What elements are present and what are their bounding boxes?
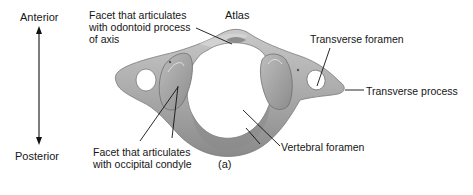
anterior-label: Anterior <box>20 11 59 23</box>
transverse-foramen-label: Transverse foramen <box>310 33 404 45</box>
anterior-posterior-arrow <box>36 26 42 145</box>
facet-occipital-label: Facet that articulates with occipital co… <box>93 146 192 170</box>
transverse-process-label: Transverse process <box>366 85 458 97</box>
atlas-title: Atlas <box>225 9 249 21</box>
facet-odontoid-label: Facet that articulates with odontoid pro… <box>89 9 191 45</box>
panel-label: (a) <box>218 158 231 170</box>
atlas-bone <box>115 29 344 156</box>
vertebral-foramen-label: Vertebral foramen <box>281 141 364 153</box>
posterior-label: Posterior <box>15 150 59 162</box>
atlas-diagram <box>0 0 473 195</box>
